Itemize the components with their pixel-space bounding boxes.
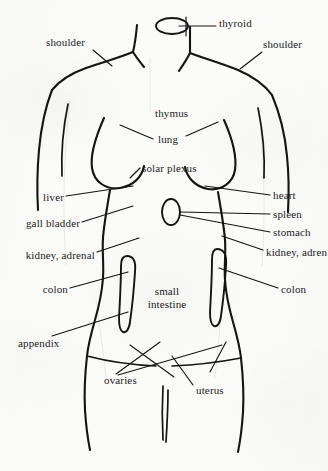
- label-gall-bladder: gall bladder: [0, 217, 80, 229]
- label-shoulder-left: shoulder: [46, 36, 85, 48]
- torso-anatomy-diagram: thyroid shoulder shoulder thymus lung so…: [0, 0, 328, 471]
- label-uterus: uterus: [196, 384, 224, 396]
- label-ovaries: ovaries: [104, 374, 137, 386]
- label-layer: thyroid shoulder shoulder thymus lung so…: [0, 0, 328, 471]
- label-colon-left: colon: [0, 283, 68, 295]
- label-liver: liver: [0, 191, 64, 203]
- label-kidney-adrenal-left: kidney, adrenal: [0, 249, 95, 261]
- label-colon-right: colon: [281, 283, 306, 295]
- label-shoulder-right: shoulder: [263, 38, 302, 50]
- label-stomach: stomach: [273, 226, 311, 238]
- label-appendix: appendix: [18, 337, 60, 349]
- label-small-intestine: small intestine: [140, 285, 194, 310]
- label-lung: lung: [158, 133, 178, 145]
- label-heart: heart: [273, 189, 296, 201]
- label-spleen: spleen: [273, 208, 302, 220]
- label-thyroid: thyroid: [219, 17, 252, 29]
- label-thymus: thymus: [155, 107, 188, 119]
- label-solar-plexus: solar plexus: [142, 162, 197, 174]
- label-kidney-adrenal-right: kidney, adren: [266, 246, 327, 258]
